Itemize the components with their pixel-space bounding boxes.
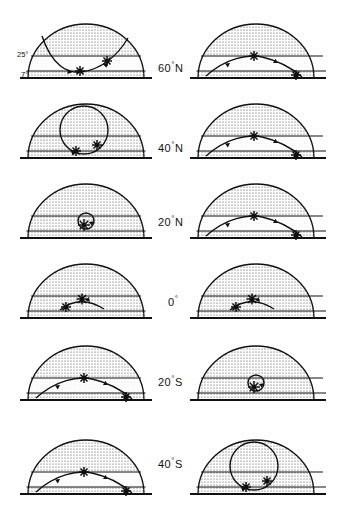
star-marker xyxy=(121,392,131,402)
dome-panel-row-20s-right xyxy=(186,330,326,410)
latitude-label-40n: 40°N xyxy=(158,142,183,154)
star-marker xyxy=(262,476,272,486)
latitude-label-0: 0° xyxy=(168,296,178,308)
dome-panel-row-40n-left xyxy=(16,88,156,168)
dome-panel-row-0-left xyxy=(16,248,156,328)
star-marker xyxy=(248,381,260,393)
star-marker xyxy=(71,146,81,156)
star-marker xyxy=(61,302,71,312)
dome-panel-row-20n-left xyxy=(16,168,156,248)
clear-altitude-band xyxy=(16,56,156,71)
star-marker xyxy=(291,70,301,80)
dome-panel-row-40s-left xyxy=(16,424,156,504)
star-marker xyxy=(231,302,241,312)
star-marker xyxy=(79,373,89,383)
star-marker xyxy=(291,150,301,160)
star-marker xyxy=(77,294,88,305)
dome-panel-row-0-right xyxy=(186,248,326,328)
star-marker xyxy=(249,131,259,141)
latitude-label-40s: 40°S xyxy=(158,458,183,470)
dome-panel-row-60n-left xyxy=(16,8,156,88)
latitude-label-20n: 20°N xyxy=(158,216,183,228)
star-marker xyxy=(92,140,102,150)
star-marker xyxy=(241,482,251,492)
star-marker xyxy=(247,294,258,305)
star-marker xyxy=(102,56,112,66)
star-marker xyxy=(249,51,259,61)
dome-panel-row-40n-right xyxy=(186,88,326,168)
star-marker xyxy=(121,486,131,496)
dome-panel-row-40s-right xyxy=(186,424,326,504)
dome-panel-row-60n-right xyxy=(186,8,326,88)
star-marker xyxy=(249,211,259,221)
star-marker xyxy=(78,219,90,231)
star-marker xyxy=(79,467,89,477)
star-marker xyxy=(291,230,301,240)
latitude-label-20s: 20°S xyxy=(158,376,183,388)
dome-panel-row-20n-right xyxy=(186,168,326,248)
dome-panel-row-20s-left xyxy=(16,330,156,410)
latitude-label-60n: 60°N xyxy=(158,62,183,74)
star-marker xyxy=(75,66,85,76)
